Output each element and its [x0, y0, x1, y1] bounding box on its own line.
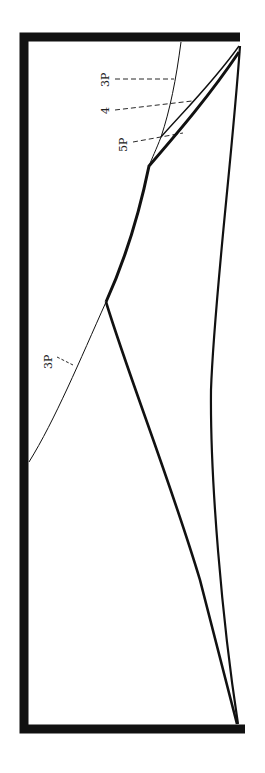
leader-5p: [133, 133, 183, 142]
label-5p: 5P: [117, 137, 130, 152]
main-phase-boundary: [106, 52, 239, 302]
label-4: 4: [99, 107, 112, 114]
lower-phase-boundary: [106, 302, 237, 724]
line-3p-lower: [29, 302, 106, 462]
leader-3p-lower: [57, 357, 73, 365]
label-3p-lower: 3P: [42, 354, 55, 369]
phase-diagram: 3P 4 5P 3P: [0, 0, 265, 773]
leader-4: [115, 101, 192, 110]
label-3p-top: 3P: [99, 72, 112, 87]
right-boundary-curve: [211, 46, 240, 724]
